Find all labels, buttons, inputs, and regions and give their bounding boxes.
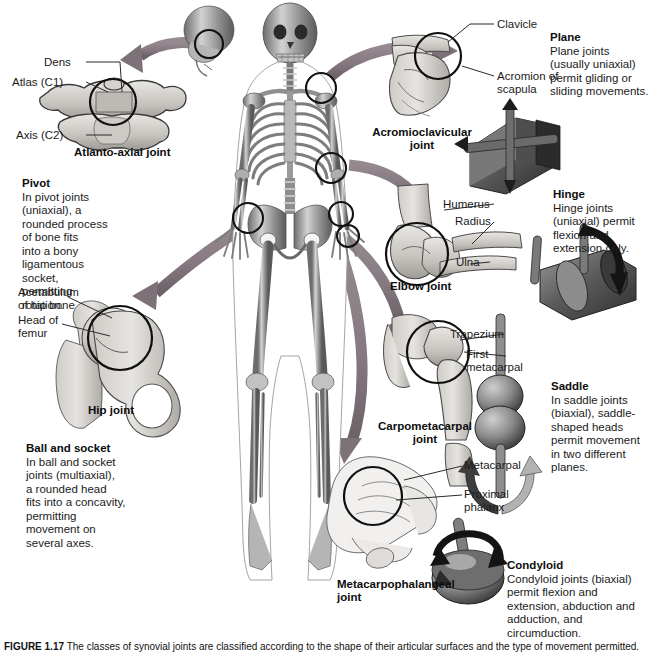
radius-bone: [452, 232, 522, 252]
label-clavicle: Clavicle: [497, 18, 537, 31]
clavicle-bone: [392, 35, 450, 56]
leader-atlas: [86, 82, 108, 92]
leader-head-femur: [62, 324, 110, 336]
lumbar-spine: [284, 178, 296, 214]
marker-metacarpophalangeal: [337, 225, 359, 247]
body-hinge: Hinge joints (uniaxial) permit flexion a…: [553, 202, 653, 256]
metacarpophalangeal-illustration: [327, 457, 437, 571]
title-metacarpophalangeal-joint: Metacarpophalangeal joint: [337, 578, 455, 604]
title-pivot: Pivot: [22, 177, 108, 191]
marker-elbow: [316, 153, 346, 183]
block-ball-and-socket: Ball and socket In ball and socket joint…: [26, 442, 130, 550]
mcp-highlight-circle: [344, 467, 402, 525]
caption-label: FIGURE 1.17: [4, 641, 64, 652]
marker-carpometacarpal: [329, 202, 353, 226]
marker-acromioclavicular: [306, 73, 336, 103]
acromioclavicular-illustration: [389, 33, 461, 116]
leader-acromion: [462, 66, 494, 76]
label-atlas: Atlas (C1): [12, 76, 63, 89]
title-plane: Plane: [550, 31, 654, 45]
thumbnail: [364, 545, 396, 570]
title-hip-joint: Hip joint: [88, 404, 134, 417]
dens-process: [104, 78, 124, 90]
label-trapezium: Trapezium: [450, 328, 504, 341]
arrow-to-hip-joint: [132, 228, 243, 310]
arrow-to-acromioclavicular: [330, 36, 458, 77]
anterior-skull: [263, 3, 317, 63]
ribcage: [247, 92, 333, 184]
label-acetabulum: Acetabulum of hip bone: [18, 286, 79, 312]
body-saddle: In saddle joints (biaxial), saddle- shap…: [551, 394, 655, 475]
carpal-bones: [392, 315, 439, 359]
label-dens: Dens: [44, 56, 71, 69]
caption-text: The classes of synovial joints are class…: [64, 641, 639, 652]
humerus-bone: [398, 184, 432, 228]
label-humerus: Humerus: [443, 198, 490, 211]
label-head-of-femur: Head of femur: [18, 314, 58, 340]
leader-dens: [86, 62, 122, 92]
label-axis: Axis (C2): [16, 129, 63, 142]
title-hinge: Hinge: [553, 188, 653, 202]
block-hinge: Hinge Hinge joints (uniaxial) permit fle…: [553, 188, 653, 256]
title-atlanto-axial-joint: Atlanto-axial joint: [74, 146, 170, 159]
arrow-to-elbow-joint: [349, 165, 430, 222]
leader-metacarpal: [404, 466, 462, 480]
synovial-joints-figure: Dens Atlas (C1) Axis (C2) Atlanto-axial …: [0, 0, 658, 653]
hip-highlight-circle: [88, 306, 152, 370]
leader-clavicle: [448, 24, 494, 42]
block-condyloid: Condyloid Condyloid joints (biaxial) per…: [507, 559, 658, 640]
label-radius: Radius: [455, 215, 491, 228]
obturator-foramen: [132, 384, 172, 428]
title-carpometacarpal-joint: Carpometacarpal joint: [369, 420, 481, 446]
block-plane: Plane Plane joints (usually uniaxial) pe…: [550, 31, 654, 99]
ac-highlight-circle: [415, 33, 461, 79]
body-ball-and-socket: In ball and socket joints (multiaxial), …: [26, 456, 130, 551]
title-condyloid: Condyloid: [507, 559, 658, 573]
label-proximal-phalanx: Proximal phalanx: [464, 488, 509, 514]
label-metacarpal: Metacarpal: [464, 459, 521, 472]
body-condyloid: Condyloid joints (biaxial) permit flexio…: [507, 573, 658, 641]
block-saddle: Saddle In saddle joints (biaxial), saddl…: [551, 380, 655, 475]
label-ulna: Ulna: [456, 256, 480, 269]
hand-outline: [327, 457, 437, 553]
hip-bone-acetabulum: [92, 311, 180, 437]
marker-hip: [233, 203, 263, 233]
femoral-head: [82, 308, 142, 368]
arrow-to-metacarpophalangeal: [334, 252, 362, 464]
lower-limbs: [246, 246, 334, 570]
saddle-joint-model-illustration: [458, 314, 542, 514]
title-saddle: Saddle: [551, 380, 655, 394]
title-elbow-joint: Elbow joint: [390, 280, 451, 293]
marker-atlanto-axial: [195, 30, 223, 58]
figure-caption: FIGURE 1.17 The classes of synovial join…: [4, 641, 654, 653]
humerus-condyle: [391, 225, 437, 279]
elbow-highlight-circle: [386, 223, 448, 285]
body-outline: [233, 58, 348, 580]
title-ball-and-socket: Ball and socket: [26, 442, 130, 456]
upper-limbs: [216, 108, 364, 259]
body-plane: Plane joints (usually uniaxial) permit g…: [550, 45, 654, 99]
clavicles: [258, 91, 322, 96]
pelvis: [248, 205, 332, 258]
scapula-acromion: [389, 53, 450, 116]
atlanto-axial-highlight-circle: [90, 79, 136, 125]
title-acromioclavicular-joint: Acromioclavicular joint: [367, 126, 477, 152]
arrow-to-atlanto-axial: [120, 43, 216, 73]
label-first-metacarpal: First metacarpal: [466, 348, 523, 374]
lateral-skull: [184, 6, 234, 76]
axis-vertebra: [58, 114, 169, 150]
leader-proximal-phalanx: [396, 495, 462, 500]
